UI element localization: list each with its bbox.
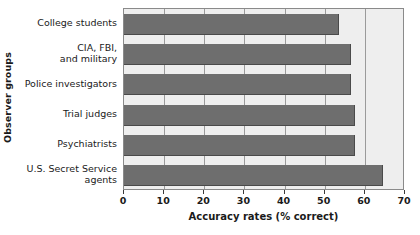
tick-label: 0	[120, 195, 127, 206]
bar	[124, 105, 355, 126]
tick-label: 30	[237, 195, 250, 206]
y-axis-title: Observer groups	[0, 0, 16, 195]
x-axis-title: Accuracy rates (% correct)	[123, 211, 404, 222]
category-label: Police investigators	[16, 79, 117, 90]
category-label-list: College studentsCIA, FBI, and militaryPo…	[16, 8, 120, 190]
bar	[124, 14, 339, 35]
tick-mark	[404, 190, 405, 194]
bar-chart: Observer groups College studentsCIA, FBI…	[0, 0, 420, 235]
plot-area	[123, 8, 404, 190]
tick-label: 20	[197, 195, 210, 206]
tick-label: 70	[397, 195, 410, 206]
category-label: U.S. Secret Service agents	[16, 164, 117, 185]
tick-label: 50	[317, 195, 330, 206]
category-label: Trial judges	[16, 109, 117, 120]
tick-mark	[364, 190, 365, 194]
tick-mark	[203, 190, 204, 194]
y-axis-title-text: Observer groups	[3, 52, 14, 143]
bars-layer	[124, 9, 403, 189]
bar	[124, 44, 351, 65]
tick-label: 40	[277, 195, 290, 206]
tick-label: 60	[357, 195, 370, 206]
category-label: Psychiatrists	[16, 139, 117, 150]
tick-mark	[284, 190, 285, 194]
category-label: CIA, FBI, and military	[16, 43, 117, 64]
x-axis-tick-labels: 010203040506070	[123, 195, 404, 209]
tick-mark	[163, 190, 164, 194]
tick-mark	[123, 190, 124, 194]
tick-mark	[243, 190, 244, 194]
bar	[124, 74, 351, 95]
tick-mark	[324, 190, 325, 194]
bar	[124, 165, 383, 186]
tick-label: 10	[157, 195, 170, 206]
bar	[124, 135, 355, 156]
category-label: College students	[16, 18, 117, 29]
